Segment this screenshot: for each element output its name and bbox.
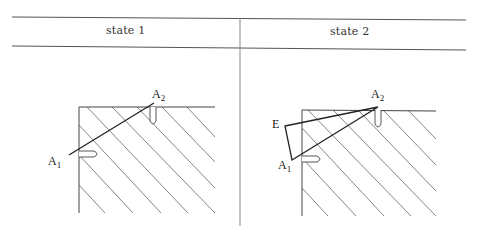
label-a1-state-2: A1: [278, 158, 291, 174]
state-2-diagram: E A1 A2: [272, 87, 436, 216]
pin-a1-state-2: [302, 156, 320, 162]
triangle-e-a1-a2-state-2: [285, 107, 378, 160]
label-e-state-2: E: [272, 117, 279, 131]
header-bottom-rule: [12, 46, 466, 50]
pin-a1-state-1: [79, 151, 97, 157]
table-rules: [12, 17, 466, 226]
label-a2-state-1: A2: [152, 87, 165, 103]
hatch-pattern-state-2: [302, 110, 436, 216]
label-a1-state-1: A1: [48, 154, 61, 170]
header-top-rule: [12, 17, 466, 20]
line-a1-a2-state-1: [69, 103, 154, 155]
diagram-canvas: A1 A2 E A1 A2: [0, 0, 478, 231]
block-outline-state-1: [79, 107, 215, 213]
hatch-pattern-state-1: [79, 107, 215, 213]
pin-a2-state-1: [150, 107, 156, 124]
pin-a2-state-2: [375, 110, 381, 127]
state-1-diagram: A1 A2: [48, 87, 215, 213]
label-a2-state-2: A2: [371, 87, 384, 103]
